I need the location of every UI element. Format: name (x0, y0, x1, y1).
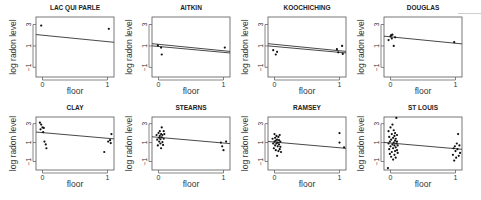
x-tick-label: 1 (454, 174, 458, 181)
data-point (395, 117, 397, 119)
data-point (388, 148, 390, 150)
y-tick-label: 3 (257, 22, 264, 26)
data-point (392, 137, 394, 139)
data-point (110, 142, 112, 144)
data-point (387, 167, 389, 169)
data-point (163, 138, 165, 140)
data-point (393, 144, 395, 146)
data-point (454, 145, 456, 147)
data-point (161, 53, 163, 55)
data-point (158, 141, 160, 143)
data-point (40, 123, 42, 125)
data-point (159, 135, 161, 137)
data-point (271, 138, 273, 140)
data-point (395, 138, 397, 140)
data-point (395, 142, 397, 144)
y-tick-label: 1 (257, 140, 264, 144)
data-point (342, 53, 344, 55)
data-point (272, 49, 274, 51)
x-axis-label: floor (67, 179, 84, 189)
data-point (455, 157, 457, 159)
data-point (452, 154, 454, 156)
data-point (394, 36, 396, 38)
data-point (280, 151, 282, 153)
data-point (391, 37, 393, 39)
data-point (276, 139, 278, 141)
y-axis-label: log radon level (124, 19, 134, 74)
panel-aitkin: AITKIN−113log radon level01floor (124, 4, 230, 96)
data-point (110, 133, 112, 135)
data-point (273, 133, 275, 135)
data-point (457, 133, 459, 135)
y-axis-label: log radon level (8, 116, 18, 171)
data-point (393, 154, 395, 156)
panel-title: RAMSEY (293, 104, 321, 111)
data-point (389, 153, 391, 155)
plot-frame (268, 117, 346, 170)
x-tick-label: 0 (157, 174, 161, 181)
panel-title: DOUGLAS (407, 4, 440, 11)
data-point (161, 136, 163, 138)
fitted-line (36, 132, 114, 139)
data-point (277, 136, 279, 138)
data-point (155, 134, 157, 136)
data-point (391, 143, 393, 145)
y-tick-label: 3 (373, 121, 380, 125)
panel-title: STEARNS (175, 104, 207, 111)
x-tick-label: 0 (157, 81, 161, 88)
y-tick-label: 3 (25, 121, 32, 125)
panel-title: KOOCHICHING (284, 4, 331, 11)
data-point (336, 48, 338, 50)
data-point (43, 127, 45, 129)
data-point (274, 144, 276, 146)
x-tick-label: 0 (273, 174, 277, 181)
data-point (277, 145, 279, 147)
panel-title: CLAY (66, 104, 84, 111)
y-tick-label: 3 (141, 22, 148, 26)
data-point (396, 134, 398, 136)
data-point (392, 158, 394, 160)
plot-frame (384, 17, 462, 77)
data-point (393, 45, 395, 47)
data-point (40, 24, 42, 26)
y-tick-label: 1 (25, 140, 32, 144)
x-tick-label: 0 (41, 81, 45, 88)
y-tick-label: −1 (141, 157, 148, 165)
data-point (394, 132, 396, 134)
data-point (279, 134, 281, 136)
data-point (225, 141, 227, 143)
panel-st-louis: ST LOUIS−113log radon level01floor (356, 104, 462, 189)
data-point (397, 152, 399, 154)
panel-lac-qui-parle: LAC QUI PARLE−113log radon level01floor (8, 4, 114, 96)
data-point (274, 137, 276, 139)
y-tick-label: −1 (373, 157, 380, 165)
data-point (387, 130, 389, 132)
data-point (161, 141, 163, 143)
panel-clay: CLAY−113log radon level01floor (8, 104, 114, 189)
data-point (163, 133, 165, 135)
data-point (393, 129, 395, 131)
data-point (162, 144, 164, 146)
y-tick-label: −1 (257, 63, 264, 71)
data-point (157, 44, 159, 46)
data-point (159, 138, 161, 140)
data-point (396, 141, 398, 143)
data-point (103, 151, 105, 153)
y-tick-label: 3 (25, 22, 32, 26)
data-point (390, 156, 392, 158)
fitted-line (152, 46, 230, 53)
y-axis-label: log radon level (8, 19, 18, 74)
data-point (391, 34, 393, 36)
panel-title: ST LOUIS (408, 104, 439, 111)
fitted-line (36, 35, 114, 43)
y-tick-label: −1 (373, 63, 380, 71)
data-point (39, 128, 41, 130)
data-point (458, 155, 460, 157)
y-tick-label: 1 (373, 44, 380, 48)
data-point (157, 132, 159, 134)
data-point (387, 142, 389, 144)
x-tick-label: 1 (222, 81, 226, 88)
data-point (337, 51, 339, 53)
data-point (163, 130, 165, 132)
panel-stearns: STEARNS−113log radon level01floor (124, 104, 230, 189)
